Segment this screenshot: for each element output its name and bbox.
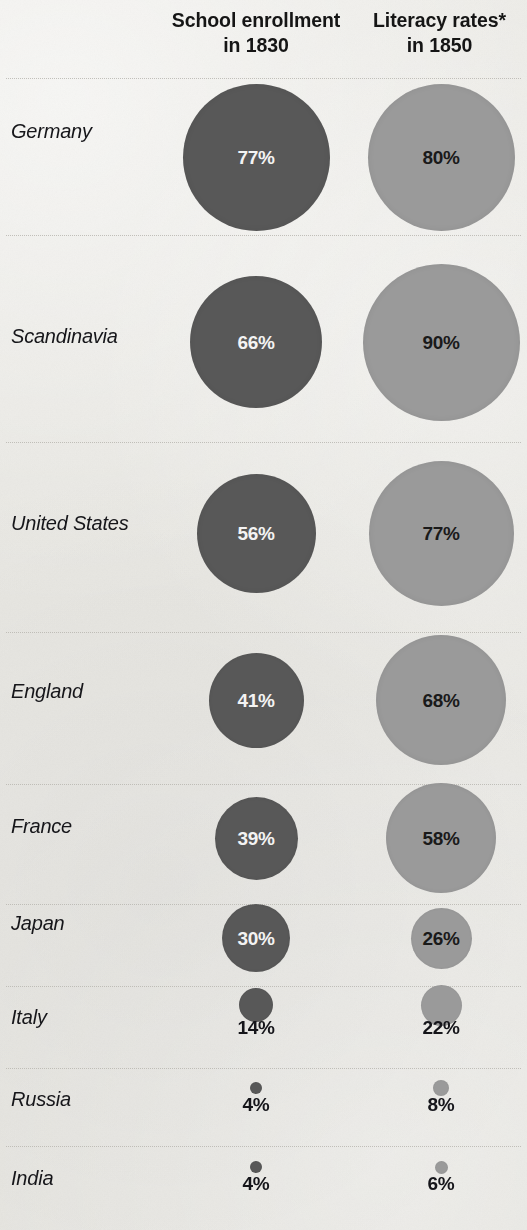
bubble-value-literacy: 80% [422,148,459,167]
bubble-value-literacy: 90% [422,333,459,352]
bubble-enrollment: 56% [197,474,316,593]
bubble-value-enrollment: 77% [237,148,274,167]
row-country-label: Japan [11,912,171,935]
row-separator [6,1068,521,1069]
bubble-value-enrollment: 30% [237,929,274,948]
row-country-label: Germany [11,120,171,143]
bubble-enrollment: 66% [190,276,322,408]
bubble-enrollment [250,1161,262,1173]
row-country-label: Scandinavia [11,325,171,348]
bubble-enrollment [250,1082,262,1094]
row-country-label: United States [11,512,171,535]
row-separator [6,78,521,79]
row-country-label: Russia [11,1088,171,1111]
row-country-label: England [11,680,171,703]
bubble-value-enrollment: 4% [196,1094,316,1116]
bubble-literacy [435,1161,448,1174]
bubble-literacy: 77% [369,461,514,606]
bubble-enrollment: 41% [209,653,304,748]
bubble-enrollment: 77% [183,84,330,231]
row-separator [6,235,521,236]
bubble-value-enrollment: 39% [237,829,274,848]
bubble-chart-page: School enrollment in 1830 Literacy rates… [0,0,527,1230]
bubble-value-enrollment: 14% [196,1017,316,1039]
bubble-value-literacy: 77% [422,524,459,543]
row-separator [6,632,521,633]
row-country-label: India [11,1167,171,1190]
bubble-value-enrollment: 56% [237,524,274,543]
bubble-value-literacy: 6% [381,1173,501,1195]
bubble-literacy: 26% [411,908,472,969]
bubble-literacy: 80% [368,84,515,231]
bubble-enrollment: 30% [222,904,290,972]
bubble-value-enrollment: 66% [237,333,274,352]
bubble-value-enrollment: 4% [196,1173,316,1195]
bubble-enrollment: 39% [215,797,298,880]
bubble-value-literacy: 22% [381,1017,501,1039]
row-country-label: France [11,815,171,838]
bubble-value-literacy: 68% [422,691,459,710]
bubble-literacy: 90% [363,264,520,421]
bubble-value-enrollment: 41% [237,691,274,710]
column-header-literacy-line2: in 1850 [352,33,527,58]
chart-header: School enrollment in 1830 Literacy rates… [0,0,527,78]
column-header-enrollment: School enrollment in 1830 [160,8,352,59]
bubble-value-literacy: 26% [422,929,459,948]
column-header-enrollment-line1: School enrollment [172,9,340,31]
bubble-literacy: 58% [386,783,496,893]
bubble-value-literacy: 58% [422,829,459,848]
bubble-literacy: 68% [376,635,506,765]
row-separator [6,442,521,443]
column-header-enrollment-line2: in 1830 [160,33,352,58]
column-header-literacy: Literacy rates* in 1850 [352,8,527,59]
row-separator [6,1146,521,1147]
bubble-value-literacy: 8% [381,1094,501,1116]
row-country-label: Italy [11,1006,171,1029]
column-header-literacy-line1: Literacy rates* [373,9,506,31]
